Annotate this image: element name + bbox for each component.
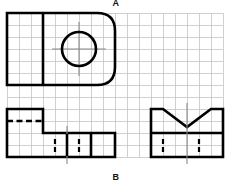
orthographic-projection-figure — [0, 0, 232, 186]
front-view — [7, 109, 115, 164]
drawing-canvas: A B — [0, 0, 232, 186]
label-a: A — [0, 0, 232, 8]
label-b: B — [0, 173, 232, 182]
right-side-view — [151, 103, 223, 164]
